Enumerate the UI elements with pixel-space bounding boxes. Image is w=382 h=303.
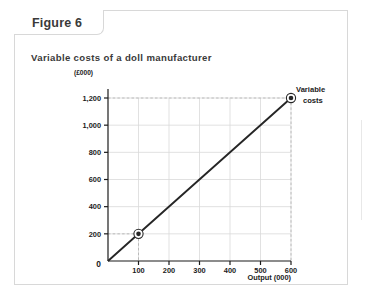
y-tick-label: 1,000 bbox=[83, 121, 102, 130]
marker-dot bbox=[289, 96, 294, 101]
x-axis-ticks bbox=[139, 261, 292, 265]
y-tick-label: 400 bbox=[89, 202, 101, 211]
series-label-line1: Variable bbox=[296, 85, 325, 94]
y-tick-label: 800 bbox=[89, 148, 101, 157]
figure-card: Figure 6 Variable costs of a doll manufa… bbox=[14, 10, 348, 285]
series-label-line2: costs bbox=[303, 96, 323, 105]
y-tick-label: 1,200 bbox=[83, 94, 102, 103]
x-tick-label: 200 bbox=[163, 266, 175, 275]
x-tick-label: 400 bbox=[224, 266, 236, 275]
x-tick-label: 300 bbox=[193, 266, 205, 275]
variable-costs-chart: (£000) 02004006008001,0001,200 100200300… bbox=[15, 11, 349, 286]
y-tick-label: 0 bbox=[96, 259, 101, 269]
y-axis-unit-label: (£000) bbox=[74, 69, 93, 77]
y-tick-label: 200 bbox=[89, 230, 101, 239]
page-gutter-line bbox=[361, 120, 362, 220]
x-axis-title: Output (000) bbox=[247, 273, 291, 282]
x-tick-label: 100 bbox=[132, 266, 144, 275]
marker-dot bbox=[136, 232, 141, 237]
y-axis-tick-labels: 02004006008001,0001,200 bbox=[83, 94, 102, 269]
chart-svg: (£000) 02004006008001,0001,200 100200300… bbox=[15, 11, 349, 286]
y-tick-label: 600 bbox=[89, 175, 101, 184]
